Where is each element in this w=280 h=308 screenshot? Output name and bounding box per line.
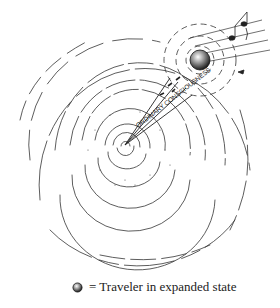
legend-text: = Traveler in expanded state <box>89 279 236 295</box>
beam-label: ORDINARY CONSCIOUSNESS <box>134 66 212 129</box>
music-notes <box>229 12 248 74</box>
concentric-rings <box>20 39 250 270</box>
legend: = Traveler in expanded state <box>72 277 236 297</box>
traveler-sphere-icon <box>72 282 83 293</box>
traveler-sphere <box>190 50 210 70</box>
spiral-illustration: ORDINARY CONSCIOUSNESS <box>0 0 280 272</box>
